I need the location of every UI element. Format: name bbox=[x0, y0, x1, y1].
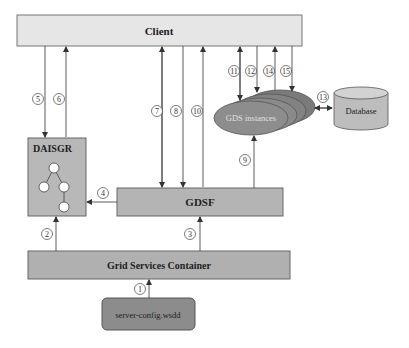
step-number: 11 bbox=[230, 67, 238, 76]
step-number: 8 bbox=[174, 107, 178, 116]
step-badge-9: 9 bbox=[240, 155, 251, 166]
step-number: 12 bbox=[247, 67, 255, 76]
step-number: 1 bbox=[138, 285, 142, 294]
step-number: 9 bbox=[243, 156, 247, 165]
gdsf-label: GDSF bbox=[185, 196, 215, 208]
step-badge-13: 13 bbox=[318, 92, 329, 103]
step-badge-12: 12 bbox=[246, 66, 257, 77]
step-badge-15: 15 bbox=[281, 66, 292, 77]
grid-services-container-label: Grid Services Container bbox=[107, 260, 211, 271]
step-number: 7 bbox=[155, 107, 159, 116]
step-number: 13 bbox=[319, 93, 327, 102]
step-number: 6 bbox=[57, 95, 61, 104]
daisgr-box: DAISGR bbox=[28, 138, 86, 216]
step-number: 5 bbox=[36, 95, 40, 104]
step-badge-4: 4 bbox=[98, 188, 109, 199]
step-badge-10: 10 bbox=[192, 106, 203, 117]
gds-instances-label: GDS instances bbox=[226, 113, 276, 123]
step-badge-3: 3 bbox=[185, 229, 196, 240]
step-badge-5: 5 bbox=[33, 94, 44, 105]
client-label: Client bbox=[145, 25, 174, 37]
architecture-diagram: Client DAISGR GDSF Grid Services Contain… bbox=[0, 0, 409, 348]
step-number: 3 bbox=[188, 230, 192, 239]
step-badge-14: 14 bbox=[264, 66, 275, 77]
step-number: 2 bbox=[45, 230, 49, 239]
step-badge-6: 6 bbox=[54, 94, 65, 105]
grid-services-container-box: Grid Services Container bbox=[28, 251, 290, 279]
step-badge-1: 1 bbox=[135, 284, 146, 295]
server-config-label: server-config.wsdd bbox=[115, 310, 181, 320]
step-number: 14 bbox=[265, 67, 273, 76]
database-label: Database bbox=[345, 106, 376, 116]
step-badge-8: 8 bbox=[171, 106, 182, 117]
daisgr-label: DAISGR bbox=[33, 143, 73, 154]
gdsf-box: GDSF bbox=[117, 188, 283, 216]
database-cylinder: Database bbox=[334, 87, 388, 130]
step-number: 10 bbox=[193, 107, 201, 116]
client-box: Client bbox=[17, 15, 302, 46]
step-number: 4 bbox=[101, 189, 105, 198]
step-badge-2: 2 bbox=[42, 229, 53, 240]
step-badge-7: 7 bbox=[152, 106, 163, 117]
gds-instances-stack: GDS instances bbox=[214, 90, 315, 135]
server-config-box: server-config.wsdd bbox=[102, 298, 195, 330]
step-number: 15 bbox=[282, 67, 290, 76]
step-badge-11: 11 bbox=[229, 66, 240, 77]
